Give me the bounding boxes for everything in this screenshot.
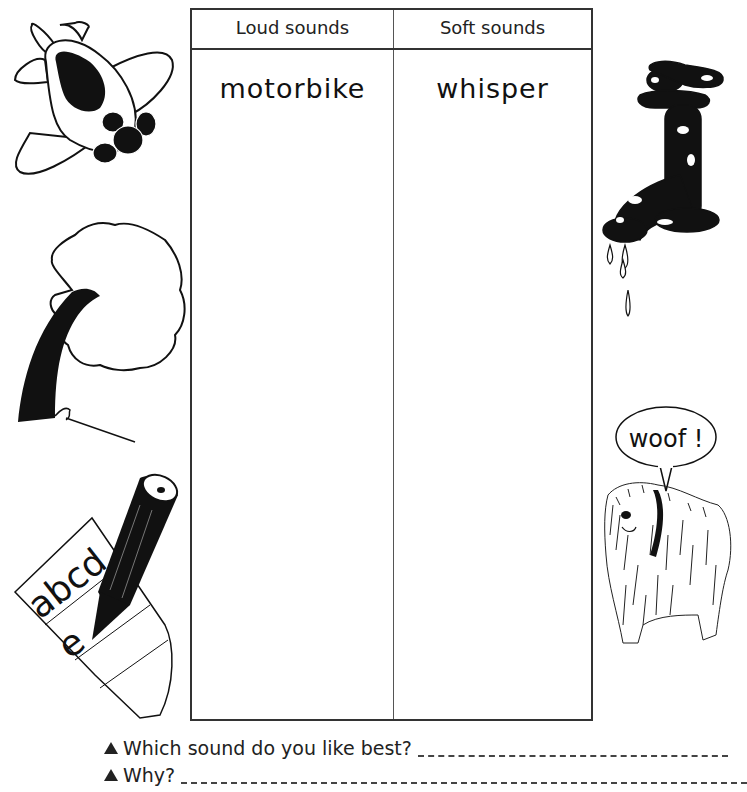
column-divider [393, 10, 394, 719]
airplane-icon [0, 0, 190, 200]
triangle-bullet-icon [104, 742, 118, 754]
triangle-bullet-icon [104, 769, 118, 781]
soft-entry[interactable]: whisper [394, 73, 591, 104]
question-favorite: Which sound do you like best? [104, 737, 728, 759]
pencil-and-paper-icon: abcd e [0, 460, 190, 730]
sounds-table: Loud sounds Soft sounds motorbike whispe… [190, 8, 593, 721]
column-header-loud: Loud sounds [192, 17, 393, 45]
header-divider [192, 48, 591, 50]
tree-icon [0, 220, 190, 450]
question-why: Why? [104, 764, 747, 786]
answer-line-why[interactable] [181, 768, 747, 784]
question-why-text: Why? [123, 764, 175, 786]
column-header-soft: Soft sounds [394, 17, 591, 45]
barking-dog-icon [598, 475, 734, 655]
answer-line-favorite[interactable] [418, 741, 728, 757]
question-favorite-text: Which sound do you like best? [123, 737, 412, 759]
svg-text:woof !: woof ! [629, 425, 704, 453]
dripping-tap-icon [595, 50, 734, 340]
loud-entry[interactable]: motorbike [192, 73, 393, 104]
